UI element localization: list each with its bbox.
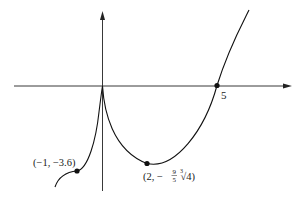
y-axis-arrow-icon	[100, 11, 105, 20]
point-min-label-num: 9	[173, 168, 177, 176]
curve-right-branch	[103, 10, 250, 164]
point-root-5	[214, 83, 219, 88]
x-tick-label-5: 5	[221, 89, 227, 101]
point-min-label-root: √4)	[181, 171, 196, 183]
function-graph: 5 (−1, −3.6) (2, − 9 5 3 √4)	[0, 0, 308, 201]
point-min-label-den: 5	[173, 176, 177, 184]
x-axis-arrow-icon	[283, 84, 292, 89]
point-left	[74, 168, 79, 173]
point-minimum	[144, 161, 149, 166]
point-left-label: (−1, −3.6)	[33, 157, 76, 169]
point-min-label-prefix: (2, −	[143, 171, 163, 183]
